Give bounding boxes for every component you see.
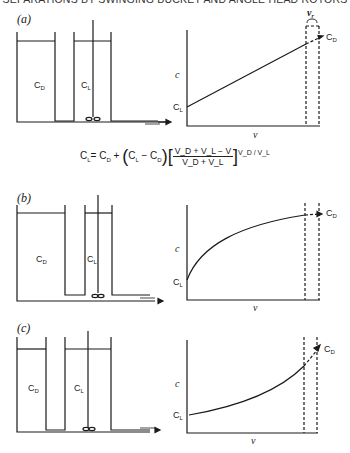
formula-exponent: V_D / V_L — [238, 149, 270, 156]
panel-c-chart — [187, 337, 320, 433]
end-label-c: CD — [324, 344, 336, 355]
panel-a-chart — [187, 19, 323, 126]
tank-label-light-b: CL — [87, 254, 98, 265]
formula-plus: + — [111, 150, 122, 161]
start-label-c: CL — [173, 410, 184, 421]
panel-a-tanks — [17, 20, 166, 124]
panel-b-tanks — [17, 195, 155, 301]
formula-numerator: V_D + V_L − V — [173, 146, 233, 157]
x-axis-label-b: v — [253, 302, 258, 313]
formula-fraction: V_D + V_L − VV_D + V_L — [173, 146, 233, 167]
start-label-b: CL — [173, 277, 184, 288]
bracket-label-a: vr — [307, 7, 314, 19]
formula-eq: = C — [91, 150, 107, 161]
formula-minus: − C — [139, 150, 158, 161]
end-label-a: CD — [326, 32, 338, 43]
panel-b-chart — [187, 203, 322, 300]
x-axis-label-c: v — [251, 435, 256, 446]
tank-label-dense-c: CD — [28, 383, 40, 394]
y-axis-label-b: c — [175, 243, 180, 254]
start-label-a: CL — [173, 102, 184, 113]
formula-denominator: V_D + V_L — [173, 157, 233, 167]
diagram-canvas: CD CL c v CL CD vr CD CL c v CL CD CD CL… — [0, 0, 350, 453]
y-axis-label-a: c — [175, 69, 180, 80]
x-axis-label-a: v — [253, 129, 258, 140]
panel-c-tanks — [17, 331, 155, 432]
y-axis-label-c: c — [175, 378, 180, 389]
tank-label-dense-b: CD — [36, 254, 48, 265]
formula-lhs: CL — [80, 150, 91, 161]
tank-label-light-c: CL — [74, 383, 85, 394]
tank-label-light-a: CL — [81, 80, 92, 91]
end-label-b: CD — [326, 208, 338, 219]
gradient-formula: CL= CD + (CL − CD)[V_D + V_L − VV_D + V_… — [0, 146, 350, 167]
tank-label-dense-a: CD — [34, 80, 46, 91]
